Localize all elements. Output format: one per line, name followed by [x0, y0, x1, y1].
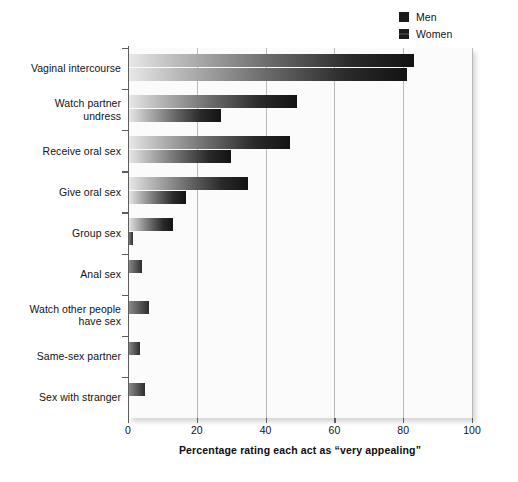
y-axis-tick	[122, 377, 128, 378]
y-axis-tick	[122, 212, 128, 213]
y-axis-tick	[122, 130, 128, 131]
bar-men	[128, 136, 290, 149]
bar-men	[128, 260, 142, 273]
x-axis-tick-label: 60	[329, 424, 341, 436]
y-category-label: Vaginal intercourse	[5, 62, 121, 75]
y-category-label-line: have sex	[5, 315, 121, 328]
x-axis-tick	[266, 418, 267, 423]
y-category-label-line: Group sex	[5, 227, 121, 240]
y-category-label-line: Receive oral sex	[5, 145, 121, 158]
x-axis-tick	[472, 418, 473, 423]
bar-women	[128, 68, 407, 81]
legend-swatch-women-icon	[399, 29, 409, 39]
y-category-label-line: Same-sex partner	[5, 350, 121, 363]
x-axis-tick-label: 80	[397, 424, 409, 436]
legend-label-women: Women	[416, 28, 453, 40]
y-category-label-line: Watch other people	[5, 303, 121, 316]
y-axis-category-labels: Vaginal intercourseWatch partnerundressR…	[0, 48, 121, 418]
x-axis-tick-label: 100	[463, 424, 481, 436]
y-category-label: Anal sex	[5, 268, 121, 281]
x-axis-tick	[197, 418, 198, 423]
bar-men	[128, 218, 173, 231]
chart-legend: Men Women	[399, 9, 509, 43]
bar-men	[128, 342, 140, 355]
y-category-label: Watch partnerundress	[5, 97, 121, 122]
bar-men	[128, 383, 145, 396]
y-category-label-line: Anal sex	[5, 268, 121, 281]
y-category-label-line: Watch partner	[5, 97, 121, 110]
y-category-label-line: Give oral sex	[5, 186, 121, 199]
x-axis-tick	[403, 418, 404, 423]
x-axis-tick-label: 0	[125, 424, 131, 436]
gridline-100	[472, 48, 473, 418]
y-axis-tick	[122, 89, 128, 90]
y-axis-tick	[122, 48, 128, 49]
x-axis-tick-labels: 020406080100	[0, 424, 518, 440]
gridline-60	[334, 48, 335, 418]
y-category-label: Give oral sex	[5, 186, 121, 199]
x-axis-tick-label: 40	[260, 424, 272, 436]
gridline-80	[403, 48, 404, 418]
y-category-label: Sex with stranger	[5, 391, 121, 404]
plot-area	[128, 48, 472, 418]
bar-men	[128, 54, 414, 67]
legend-item-women: Women	[399, 26, 509, 41]
bar-men	[128, 95, 297, 108]
y-category-label-line: undress	[5, 110, 121, 123]
bar-chart-figure: Men Women Vaginal intercourseWatch partn…	[0, 0, 518, 482]
bar-women	[128, 150, 231, 163]
x-axis-tick	[334, 418, 335, 423]
bar-women	[128, 191, 186, 204]
x-axis-tick	[128, 418, 129, 423]
y-category-label-line: Sex with stranger	[5, 391, 121, 404]
bar-women	[128, 109, 221, 122]
x-axis-title: Percentage rating each act as “very appe…	[128, 444, 472, 456]
y-axis-tick	[122, 171, 128, 172]
y-category-label-line: Vaginal intercourse	[5, 62, 121, 75]
y-category-label: Group sex	[5, 227, 121, 240]
y-axis-tick	[122, 254, 128, 255]
bar-men	[128, 301, 149, 314]
legend-label-men: Men	[416, 11, 437, 23]
bar-men	[128, 177, 248, 190]
x-axis-tick-label: 20	[191, 424, 203, 436]
y-axis-spine	[128, 46, 129, 420]
y-category-label: Watch other peoplehave sex	[5, 303, 121, 328]
y-category-label: Same-sex partner	[5, 350, 121, 363]
y-axis-tick	[122, 336, 128, 337]
y-category-label: Receive oral sex	[5, 145, 121, 158]
legend-item-men: Men	[399, 9, 509, 24]
y-axis-tick	[122, 295, 128, 296]
legend-swatch-men-icon	[399, 12, 409, 22]
